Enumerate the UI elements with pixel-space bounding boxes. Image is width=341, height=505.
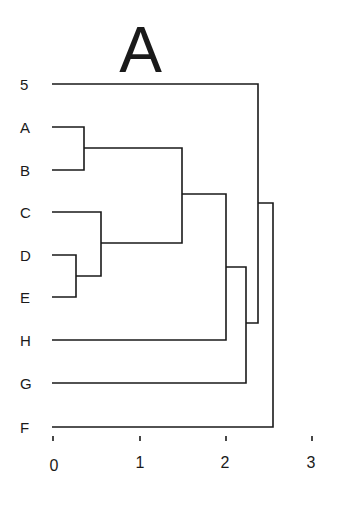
x-axis-ticks — [53, 436, 312, 441]
branch-d-e — [52, 255, 76, 297]
branch-ab-cde — [84, 148, 182, 243]
branch-a-b — [52, 127, 84, 170]
dendrogram-plot — [0, 0, 341, 505]
branch-5 — [52, 84, 258, 323]
branch-f — [52, 203, 273, 427]
branch-g — [52, 267, 246, 383]
tick-label-2: 2 — [215, 455, 235, 471]
tick-label-1: 1 — [130, 455, 150, 471]
tick-label-0: 0 — [44, 458, 64, 474]
branch-h — [52, 194, 226, 340]
tick-label-3: 3 — [301, 455, 321, 471]
dendrogram-branches — [52, 84, 273, 427]
